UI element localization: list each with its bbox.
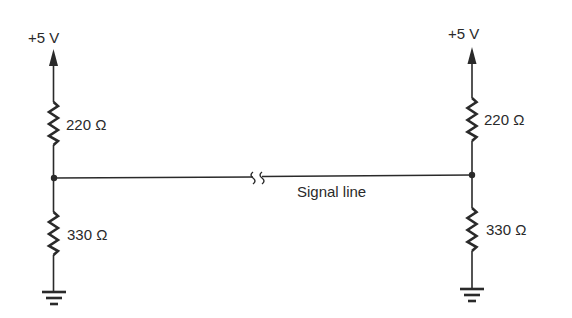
right-termination [460, 47, 484, 301]
right-ground-icon [460, 289, 484, 301]
line-break-icon [251, 172, 264, 184]
signal-line [54, 172, 472, 184]
left-upper-resistor-label: 220 Ω [66, 117, 106, 132]
right-lower-resistor-icon [468, 208, 477, 251]
right-supply-label: +5 V [448, 26, 479, 41]
left-ground-icon [42, 292, 66, 304]
left-lower-resistor-icon [49, 212, 58, 255]
left-termination [42, 49, 66, 304]
signal-line-label: Signal line [297, 184, 366, 199]
left-supply-label: +5 V [28, 30, 59, 45]
right-upper-resistor-icon [468, 98, 477, 141]
circuit-diagram [0, 0, 572, 318]
right-lower-resistor-label: 330 Ω [486, 222, 526, 237]
left-lower-resistor-label: 330 Ω [67, 227, 107, 242]
right-upper-resistor-label: 220 Ω [484, 112, 524, 127]
left-upper-resistor-icon [49, 102, 58, 145]
right-junction-dot [469, 172, 475, 178]
